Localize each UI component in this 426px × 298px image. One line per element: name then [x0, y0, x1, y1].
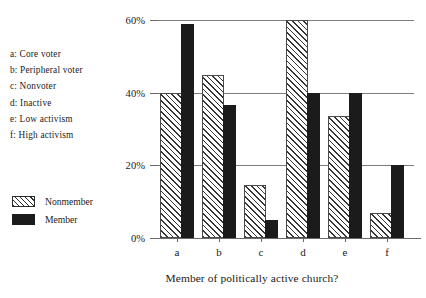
bar-nonmember-f: [370, 213, 392, 238]
y-tick-label: 60%: [126, 15, 145, 26]
x-tick-label-a: a: [175, 246, 180, 258]
x-tick-mark: [219, 238, 220, 242]
y-tick-label: 0%: [131, 233, 145, 244]
bar-nonmember-e: [328, 116, 350, 238]
x-tick-label-d: d: [300, 246, 306, 258]
bar-member-b: [223, 105, 236, 238]
x-tick-mark: [303, 238, 304, 242]
bar-group-c: [244, 20, 282, 238]
bar-nonmember-a: [160, 93, 182, 238]
bar-group-b: [202, 20, 240, 238]
bar-group-e: [328, 20, 366, 238]
y-tick-label: 20%: [126, 160, 145, 171]
x-tick-mark: [345, 238, 346, 242]
bar-member-d: [307, 93, 320, 238]
bar-nonmember-c: [244, 185, 266, 238]
x-tick-mark: [387, 238, 388, 242]
x-axis-title: Member of politically active church?: [0, 272, 426, 284]
bar-group-a: [160, 20, 198, 238]
plot-area: [158, 20, 414, 238]
x-tick-label-b: b: [216, 246, 222, 258]
x-tick-label-f: f: [385, 246, 389, 258]
y-tick-mark: [150, 20, 158, 21]
y-tick-mark: [150, 165, 158, 166]
x-axis-line: [151, 238, 421, 239]
bar-chart-figure: a: Core voter b: Peripheral voter c: Non…: [0, 0, 426, 298]
bar-member-c: [265, 220, 278, 238]
y-axis: 0% 20% 40% 60%: [0, 0, 158, 298]
x-tick-mark: [177, 238, 178, 242]
bar-member-a: [181, 24, 194, 238]
bar-member-f: [391, 165, 404, 238]
x-tick-label-c: c: [259, 246, 264, 258]
x-tick-mark: [261, 238, 262, 242]
bar-member-e: [349, 93, 362, 238]
y-tick-label: 40%: [126, 87, 145, 98]
bar-nonmember-b: [202, 75, 224, 239]
bar-group-d: [286, 20, 324, 238]
bar-nonmember-d: [286, 20, 308, 238]
x-tick-label-e: e: [343, 246, 348, 258]
bar-group-f: [370, 20, 408, 238]
y-tick-mark: [150, 93, 158, 94]
